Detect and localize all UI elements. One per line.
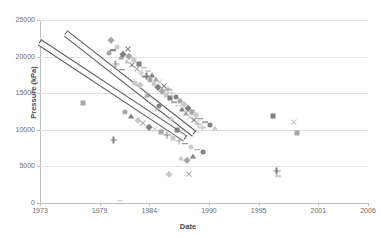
gridline-y xyxy=(40,57,368,58)
data-point xyxy=(199,124,206,131)
data-point xyxy=(168,116,174,121)
x-tick-mark xyxy=(318,203,319,206)
x-tick-label: 1979 xyxy=(84,207,116,215)
x-axis-title: Date xyxy=(0,222,376,231)
data-point xyxy=(194,149,200,151)
data-point xyxy=(212,126,218,131)
y-tick-label: 15000 xyxy=(16,89,35,97)
data-point xyxy=(186,171,193,178)
data-point xyxy=(141,67,147,69)
data-point xyxy=(112,60,119,67)
data-point xyxy=(194,113,199,118)
data-point xyxy=(273,167,280,174)
data-point xyxy=(117,200,123,202)
data-point xyxy=(114,45,119,50)
data-point xyxy=(270,113,275,118)
data-point xyxy=(110,137,117,144)
x-tick-label: 2006 xyxy=(352,207,381,215)
y-tick-label: 10000 xyxy=(16,126,35,134)
data-point xyxy=(164,131,171,138)
x-tick-label: 1984 xyxy=(133,207,165,215)
y-tick-mark xyxy=(37,166,40,167)
data-point xyxy=(171,101,177,103)
data-point xyxy=(144,93,150,98)
gridline-y xyxy=(40,93,368,94)
x-tick-mark xyxy=(40,203,41,206)
y-tick-label: 0 xyxy=(31,199,35,207)
x-tick-label: 1995 xyxy=(243,207,275,215)
x-tick-mark xyxy=(368,203,369,206)
x-tick-label: 1990 xyxy=(193,207,225,215)
data-point xyxy=(201,150,206,155)
x-tick-label: 2001 xyxy=(302,207,334,215)
x-tick-mark xyxy=(259,203,260,206)
y-tick-label: 25000 xyxy=(16,16,35,24)
data-point xyxy=(190,154,196,159)
data-point xyxy=(152,126,159,133)
data-point xyxy=(189,144,194,149)
data-point xyxy=(154,105,161,112)
data-point xyxy=(295,130,300,135)
y-tick-label: 5000 xyxy=(19,162,35,170)
data-point xyxy=(123,110,128,115)
data-point xyxy=(137,61,142,66)
data-point xyxy=(291,118,298,125)
data-point xyxy=(182,143,188,145)
y-tick-mark xyxy=(37,93,40,94)
y-tick-mark xyxy=(37,130,40,131)
gridline-y xyxy=(40,166,368,167)
x-tick-label: 1973 xyxy=(24,207,56,215)
y-tick-mark xyxy=(37,20,40,21)
data-point xyxy=(125,46,132,53)
y-tick-label: 20000 xyxy=(16,53,35,61)
data-point xyxy=(110,49,116,51)
data-point xyxy=(197,118,203,120)
x-tick-mark xyxy=(209,203,210,206)
data-point xyxy=(275,175,281,177)
x-tick-mark xyxy=(149,203,150,206)
data-point xyxy=(119,69,125,71)
y-tick-mark xyxy=(37,57,40,58)
data-point xyxy=(80,101,85,106)
data-point xyxy=(128,113,134,118)
gridline-y xyxy=(40,20,368,21)
data-point xyxy=(106,50,111,55)
x-tick-mark xyxy=(100,203,101,206)
data-point xyxy=(175,127,180,132)
